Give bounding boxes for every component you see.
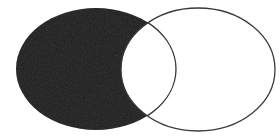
venn-diagram [0, 0, 280, 138]
